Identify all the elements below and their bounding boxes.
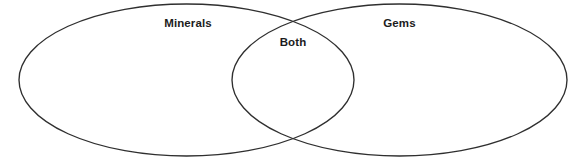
intersection-label: Both <box>232 36 354 48</box>
venn-diagram-figure: Minerals Gems Both <box>0 0 582 167</box>
right-set-label: Gems <box>232 17 567 29</box>
